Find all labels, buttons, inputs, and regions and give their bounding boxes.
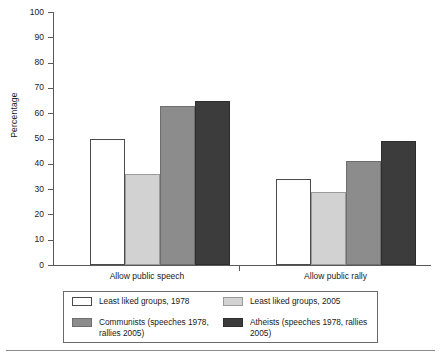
y-tick-70 xyxy=(48,88,53,89)
y-tick-50 xyxy=(48,139,53,140)
bar-g0-s3 xyxy=(195,101,230,265)
y-tick-label-80: 80 xyxy=(10,58,44,67)
bar-g0-s1 xyxy=(125,174,160,265)
legend-swatch-light-gray xyxy=(223,297,243,306)
y-tick-100 xyxy=(48,12,53,13)
bar-g1-s1 xyxy=(311,192,346,265)
y-tick-label-70: 70 xyxy=(10,83,44,92)
bar-g0-s2 xyxy=(160,106,195,265)
y-tick-40 xyxy=(48,164,53,165)
bar-series-container xyxy=(54,12,431,265)
legend-label-3: Atheists (speeches 1978, rallies 2005) xyxy=(250,317,372,338)
bar-g1-s0 xyxy=(276,179,311,265)
legend-label-1: Least liked groups, 2005 xyxy=(250,296,340,307)
legend-swatch-mid-gray xyxy=(72,318,92,327)
legend-swatch-dark-gray xyxy=(223,318,243,327)
y-tick-10 xyxy=(48,240,53,241)
page-horizontal-rule xyxy=(6,350,435,351)
bar-g1-s2 xyxy=(346,161,381,265)
y-tick-label-60: 60 xyxy=(10,109,44,118)
legend-item-3: Atheists (speeches 1978, rallies 2005) xyxy=(223,317,372,338)
plot-area: Percentage 1009080706050403020100 Allow … xyxy=(0,0,441,290)
chart-legend: Least liked groups, 1978Least liked grou… xyxy=(63,291,378,343)
y-tick-label-50: 50 xyxy=(10,134,44,143)
y-tick-60 xyxy=(48,113,53,114)
y-tick-label-20: 20 xyxy=(10,210,44,219)
category-label-1: Allow public rally xyxy=(240,271,431,281)
y-tick-20 xyxy=(48,214,53,215)
y-tick-80 xyxy=(48,63,53,64)
legend-item-2: Communists (speeches 1978, rallies 2005) xyxy=(72,317,221,338)
category-label-0: Allow public speech xyxy=(54,271,240,281)
legend-label-2: Communists (speeches 1978, rallies 2005) xyxy=(99,317,221,338)
bar-g0-s0 xyxy=(90,139,125,266)
y-tick-label-10: 10 xyxy=(10,235,44,244)
bar-chart-figure: Percentage 1009080706050403020100 Allow … xyxy=(0,0,441,358)
y-tick-0 xyxy=(48,265,53,266)
legend-item-1: Least liked groups, 2005 xyxy=(223,296,372,317)
y-tick-label-100: 100 xyxy=(10,8,44,17)
y-tick-label-0: 0 xyxy=(10,261,44,270)
x-axis-line xyxy=(53,265,431,266)
legend-swatch-white xyxy=(72,297,92,306)
y-tick-30 xyxy=(48,189,53,190)
y-tick-label-90: 90 xyxy=(10,33,44,42)
legend-item-0: Least liked groups, 1978 xyxy=(72,296,221,317)
bar-g1-s3 xyxy=(381,141,416,265)
legend-label-0: Least liked groups, 1978 xyxy=(99,296,189,307)
y-tick-90 xyxy=(48,37,53,38)
y-tick-label-40: 40 xyxy=(10,159,44,168)
y-tick-label-30: 30 xyxy=(10,185,44,194)
